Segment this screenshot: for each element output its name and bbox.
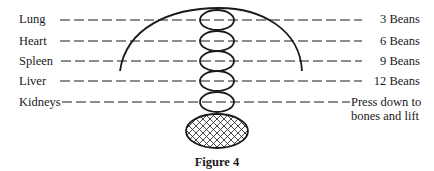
pressure-kidneys-line1: Press down to bbox=[351, 95, 421, 109]
pressure-kidneys-line2: bones and lift bbox=[351, 109, 419, 123]
label-spleen: Spleen bbox=[19, 54, 53, 68]
pressure-heart: 6 Beans bbox=[380, 34, 420, 48]
label-kidneys: Kidneys bbox=[19, 95, 61, 109]
pressure-spleen: 9 Beans bbox=[380, 54, 420, 68]
pulse-depth-diagram bbox=[0, 0, 434, 171]
figure-caption: Figure 4 bbox=[0, 155, 434, 170]
hatched-bone-ellipse bbox=[186, 114, 248, 148]
label-heart: Heart bbox=[19, 34, 47, 48]
pressure-liver: 12 Beans bbox=[374, 74, 420, 88]
label-liver: Liver bbox=[19, 74, 46, 88]
label-lung: Lung bbox=[19, 12, 45, 26]
pressure-lung: 3 Beans bbox=[380, 12, 420, 26]
